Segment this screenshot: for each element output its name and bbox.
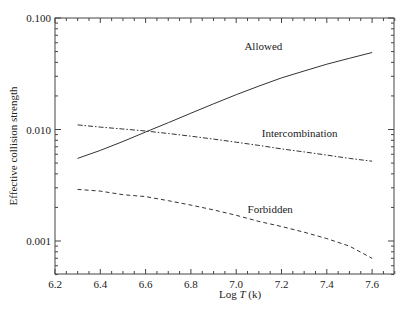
label-intercombination: Intercombination bbox=[262, 127, 338, 139]
x-tick-label: 6.8 bbox=[184, 278, 198, 290]
y-tick-label: 0.001 bbox=[26, 235, 51, 247]
series-labels: AllowedIntercombinationForbidden bbox=[244, 40, 338, 215]
series-forbidden bbox=[78, 189, 373, 258]
y-tick-label: 0.010 bbox=[26, 124, 51, 136]
plot-frame bbox=[55, 18, 394, 274]
x-tick-label: 6.4 bbox=[93, 278, 107, 290]
y-axis-label: Effective collision strength bbox=[7, 86, 19, 205]
x-axis-label: Log T (k) bbox=[219, 288, 262, 301]
label-forbidden: Forbidden bbox=[248, 203, 294, 215]
y-axis: 0.1000.0100.001 bbox=[26, 12, 394, 275]
x-tick-label: 7.4 bbox=[320, 278, 334, 290]
x-tick-label: 6.6 bbox=[139, 278, 153, 290]
y-tick-label: 0.100 bbox=[26, 12, 51, 24]
x-tick-label: 7.6 bbox=[365, 278, 379, 290]
x-axis: 6.26.46.66.87.07.27.47.6 bbox=[48, 18, 395, 290]
x-tick-label: 7.2 bbox=[275, 278, 289, 290]
series-allowed bbox=[78, 53, 373, 159]
label-allowed: Allowed bbox=[244, 40, 282, 52]
x-tick-label: 6.2 bbox=[48, 278, 62, 290]
chart: 6.26.46.66.87.07.27.47.6 0.1000.0100.001… bbox=[0, 0, 409, 318]
series-lines bbox=[78, 53, 373, 259]
